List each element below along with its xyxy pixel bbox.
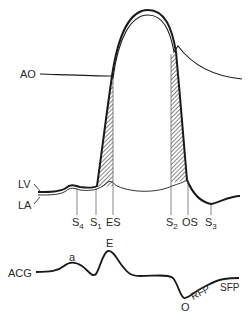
lv-label: LV [18,179,31,190]
lv-trace [38,10,240,204]
ao-label: AO [20,69,36,80]
la-pointer [34,197,40,204]
acg-e-point-label: E [106,238,113,249]
acg-o-point-label: O [181,302,190,313]
s3-label: S3 [205,217,217,231]
la-label: LA [18,200,31,211]
s2-label: S2 [166,217,178,231]
es-label: ES [106,217,121,231]
cardiac-cycle-diagram [0,0,250,320]
la-trace [38,180,187,195]
s4-label: S4 [72,217,84,231]
acg-sfp-label: SFP [220,283,239,293]
s1-label: S1 [90,217,102,231]
lv-pointer [34,184,40,191]
acg-label: ACG [8,268,32,279]
acg-a-wave-label: a [69,252,75,263]
ao-trace [40,15,242,79]
os-label: OS [182,217,198,231]
